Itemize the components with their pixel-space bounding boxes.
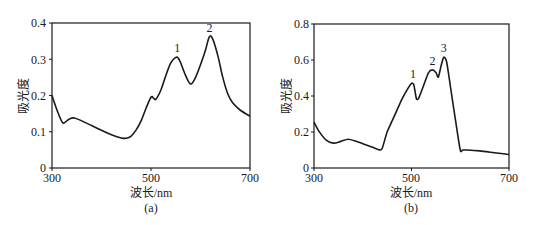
caption-b: (b) [396,201,426,216]
x-tick-label: 300 [305,171,323,185]
x-tick-label: 500 [402,171,420,185]
peak-label: 3 [441,41,447,55]
peak-label: 2 [429,54,435,68]
plot-area: 123 [311,24,509,171]
chart-panel-b: 0.8 0.6 0.4 0.2 0 300 500 700 波长/nm 吸光度 … [266,0,533,225]
y-axis-ticks: 0.4 0.3 0.2 0.1 0 [31,16,46,175]
plot-area: 12 [49,21,250,171]
chart-panel-a: 0.4 0.3 0.2 0.1 0 300 500 700 波长/nm 吸光度 … [0,0,266,225]
x-tick-label: 500 [142,171,160,185]
peak-label: 1 [174,41,180,55]
y-tick-label: 0.1 [31,125,46,139]
x-tick-label: 700 [500,171,518,185]
x-axis-label: 波长/nm [390,186,433,200]
x-axis-label: 波长/nm [130,186,173,200]
chart-b-plot: 0.8 0.6 0.4 0.2 0 300 500 700 波长/nm 吸光度 … [266,0,533,225]
y-tick-label: 0.6 [294,53,309,67]
plot-frame [52,23,250,168]
peak-label: 2 [206,21,212,35]
y-tick-label: 0.8 [294,17,309,31]
x-axis-ticks: 300 500 700 [43,171,259,185]
chart-a-plot: 0.4 0.3 0.2 0.1 0 300 500 700 波长/nm 吸光度 … [0,0,266,225]
y-axis-label: 吸光度 [279,78,294,114]
y-tick-label: 0.4 [31,16,46,30]
y-axis-label: 吸光度 [16,78,31,114]
y-tick-label: 0.2 [294,125,309,139]
spectrum-line [52,36,250,139]
peak-label: 1 [410,67,416,81]
y-tick-label: 0.3 [31,53,46,67]
x-tick-label: 300 [43,171,61,185]
x-axis-ticks: 300 500 700 [305,171,518,185]
y-tick-label: 0.4 [294,89,309,103]
y-axis-ticks: 0.8 0.6 0.4 0.2 0 [294,17,309,175]
x-tick-label: 700 [241,171,259,185]
caption-a: (a) [136,201,166,216]
plot-frame [314,24,509,168]
y-tick-label: 0.2 [31,89,46,103]
